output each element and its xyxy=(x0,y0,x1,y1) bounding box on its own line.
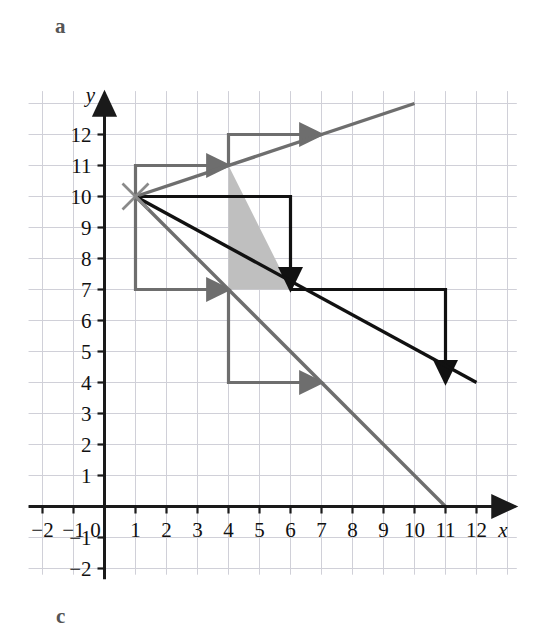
y-tick-label: 11 xyxy=(71,154,91,178)
x-tick-label: 2 xyxy=(161,518,172,542)
x-tick-label: 0 xyxy=(90,518,101,542)
y-tick-label: 9 xyxy=(81,216,92,240)
x-tick-label: 4 xyxy=(223,518,234,542)
y-tick-label: −2 xyxy=(69,557,91,581)
y-tick-label: 12 xyxy=(71,123,92,147)
x-tick-label: 5 xyxy=(254,518,265,542)
x-tick-label: 6 xyxy=(285,518,296,542)
y-tick-label: 7 xyxy=(81,278,92,302)
x-tick-label: 12 xyxy=(466,518,487,542)
y-axis-label: y xyxy=(84,83,96,107)
y-tick-label: 4 xyxy=(81,371,92,395)
y-tick-label: 6 xyxy=(81,309,92,333)
x-axis-label: x xyxy=(497,518,508,542)
x-tick-label: −2 xyxy=(31,518,53,542)
x-tick-label: 7 xyxy=(316,518,327,542)
panel-label-a: a xyxy=(55,14,66,39)
gray-ascending-line xyxy=(136,104,415,197)
y-tick-label: 5 xyxy=(81,340,92,364)
y-tick-label: 2 xyxy=(81,433,92,457)
black-slope-step-second xyxy=(291,290,446,383)
x-tick-label: 3 xyxy=(192,518,203,542)
y-tick-label: 10 xyxy=(71,185,92,209)
x-tick-label: 9 xyxy=(378,518,389,542)
x-tick-label: 10 xyxy=(404,518,425,542)
x-tick-label: 11 xyxy=(435,518,455,542)
x-tick-label: 1 xyxy=(130,518,141,542)
panel-label-c: c xyxy=(56,604,65,629)
y-tick-label: 8 xyxy=(81,247,92,271)
y-tick-label: 1 xyxy=(81,464,92,488)
figure-panel-a: a c −2−10123456789101112−2−1123456789101… xyxy=(0,0,543,636)
y-tick-label: 3 xyxy=(81,402,92,426)
y-tick-label: −1 xyxy=(69,526,91,550)
coordinate-plot: −2−10123456789101112−2−1123456789101112 … xyxy=(0,0,543,636)
x-tick-label: 8 xyxy=(347,518,358,542)
